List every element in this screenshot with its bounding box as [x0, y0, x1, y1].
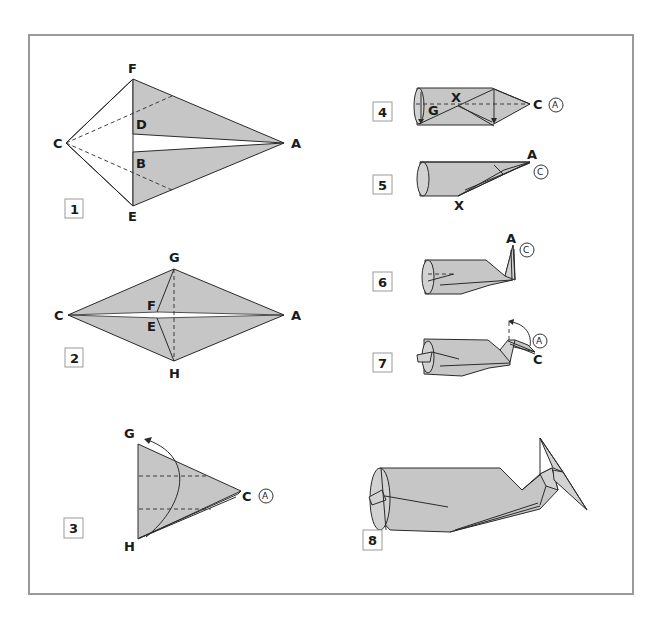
- step-number: 6: [378, 275, 387, 290]
- label-G: G: [124, 426, 135, 441]
- step-4: G X C A 4: [373, 88, 563, 126]
- label-C: C: [53, 136, 63, 151]
- label-A: A: [291, 136, 301, 151]
- label-A-circled: A: [262, 491, 269, 501]
- label-C: C: [533, 352, 543, 367]
- step-number: 3: [69, 521, 78, 536]
- label-E: E: [128, 209, 137, 224]
- label-A: A: [291, 308, 301, 323]
- label-X: X: [451, 90, 461, 105]
- origami-diagram: F D C B E A 1 G F C E H A 2 G H C A: [0, 0, 669, 626]
- step6-body: [425, 246, 513, 294]
- step1-left-kite: [66, 79, 133, 206]
- step-1: F D C B E A 1: [53, 61, 301, 224]
- step-5: A C X 5: [373, 147, 548, 213]
- label-A-circled: A: [536, 336, 543, 346]
- label-A-circled: A: [552, 100, 559, 110]
- step6-end-ellipse: [422, 260, 434, 294]
- step7-flap: [417, 352, 432, 362]
- label-C: C: [242, 489, 252, 504]
- step5-end-ellipse: [417, 162, 429, 196]
- step-number: 5: [378, 178, 387, 193]
- step3-triangle: [138, 444, 241, 539]
- label-D: D: [136, 117, 147, 132]
- step6-head: [505, 245, 515, 280]
- label-A: A: [506, 231, 516, 246]
- label-B: B: [136, 156, 146, 171]
- step-number: 4: [378, 105, 387, 120]
- label-H: H: [169, 366, 180, 381]
- step-number: 1: [70, 202, 79, 217]
- label-F: F: [128, 61, 137, 76]
- step-6: A C 6: [373, 231, 534, 294]
- step-3: G H C A 3: [64, 426, 273, 554]
- label-X: X: [454, 198, 464, 213]
- label-G: G: [169, 250, 180, 265]
- label-C-circled: C: [537, 167, 543, 177]
- step-number: 2: [70, 351, 79, 366]
- label-C-circled: C: [523, 245, 529, 255]
- step1-lower-flap: [133, 143, 284, 206]
- step-2: G F C E H A 2: [54, 250, 301, 381]
- step1-upper-flap: [133, 79, 284, 143]
- arrowhead-icon: [144, 437, 152, 444]
- label-G: G: [428, 103, 439, 118]
- label-A: A: [527, 147, 537, 162]
- step-7: A C 7: [373, 319, 547, 376]
- label-F: F: [147, 298, 156, 313]
- step-number: 8: [368, 533, 377, 548]
- step8-body: [372, 468, 558, 532]
- step-8: 8: [363, 438, 587, 550]
- step-number: 7: [378, 356, 387, 371]
- label-E: E: [147, 319, 156, 334]
- label-C: C: [533, 97, 543, 112]
- label-C: C: [54, 308, 64, 323]
- step7-body: [424, 339, 535, 376]
- step4-end-ellipse: [414, 88, 424, 124]
- label-H: H: [124, 539, 135, 554]
